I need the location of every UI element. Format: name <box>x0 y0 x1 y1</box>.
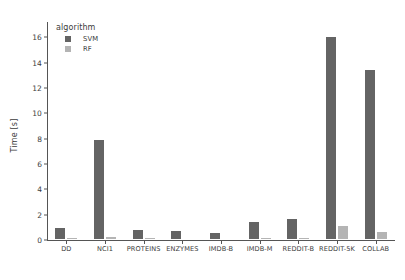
bar-rf[interactable] <box>182 238 194 240</box>
chart-figure: Time [s] 0246810121416 DDNCI1PROTEINSENZ… <box>0 0 405 280</box>
y-axis-tick-label: 2 <box>37 210 42 219</box>
legend-label-rf: RF <box>83 45 92 53</box>
x-axis-tick-mark <box>376 241 377 244</box>
y-axis-tick: 12 <box>32 83 47 92</box>
y-axis-tick: 0 <box>37 236 47 245</box>
y-axis-tick-label: 16 <box>32 33 42 42</box>
x-axis-tick-mark <box>260 241 261 244</box>
x-axis-tick-mark <box>337 241 338 244</box>
y-axis-tick-label: 0 <box>37 236 42 245</box>
x-axis-tick-label: IMDB-M <box>247 245 273 253</box>
bar-group <box>209 22 233 240</box>
bar-rf[interactable] <box>221 238 233 240</box>
bar-rf[interactable] <box>66 237 78 240</box>
x-axis-tick-mark <box>298 241 299 244</box>
y-axis-tick-label: 4 <box>37 185 42 194</box>
x-axis-tick-label: DD <box>61 245 71 253</box>
x-axis-tick-label: NCI1 <box>97 245 113 253</box>
bar-svm[interactable] <box>132 229 144 240</box>
y-axis-tick: 6 <box>37 159 47 168</box>
bar-rf[interactable] <box>376 231 388 241</box>
x-axis-tick-label: REDDIT-5K <box>319 245 355 253</box>
legend-item-rf[interactable]: RF <box>56 45 98 53</box>
bar-group <box>248 22 272 240</box>
y-axis-tick: 16 <box>32 33 47 42</box>
bar-svm[interactable] <box>54 227 66 240</box>
bar-rf[interactable] <box>144 237 156 240</box>
bar-group <box>170 22 194 240</box>
bar-rf[interactable] <box>337 225 349 240</box>
bar-svm[interactable] <box>248 221 260 240</box>
x-axis-tick-mark <box>221 241 222 244</box>
y-axis-tick: 10 <box>32 109 47 118</box>
x-axis-tick-label: COLLAB <box>362 245 389 253</box>
x-axis-tick-label: REDDIT-B <box>282 245 314 253</box>
bar-svm[interactable] <box>209 232 221 240</box>
y-axis: 0246810121416 <box>0 0 47 280</box>
y-axis-tick-label: 12 <box>32 83 42 92</box>
y-axis-tick-label: 6 <box>37 159 42 168</box>
bar-group <box>364 22 388 240</box>
legend: algorithm SVM RF <box>52 21 102 56</box>
bar-svm[interactable] <box>93 139 105 240</box>
y-axis-tick: 2 <box>37 210 47 219</box>
bar-svm[interactable] <box>364 69 376 240</box>
y-axis-tick-label: 10 <box>32 109 42 118</box>
bar-group <box>132 22 156 240</box>
bar-svm[interactable] <box>170 230 182 240</box>
y-axis-tick: 8 <box>37 134 47 143</box>
y-axis-tick: 4 <box>37 185 47 194</box>
bar-group <box>286 22 310 240</box>
bar-rf[interactable] <box>260 237 272 240</box>
y-axis-tick-label: 14 <box>32 58 42 67</box>
legend-title: algorithm <box>56 23 98 32</box>
y-axis-tick-label: 8 <box>37 134 42 143</box>
bar-group <box>325 22 349 240</box>
x-axis-tick-label: IMDB-B <box>209 245 234 253</box>
bar-rf[interactable] <box>298 237 310 240</box>
bar-svm[interactable] <box>325 36 337 240</box>
legend-swatch-svm <box>65 36 71 42</box>
x-axis-tick-mark <box>105 241 106 244</box>
legend-label-svm: SVM <box>83 35 98 43</box>
bar-svm[interactable] <box>286 218 298 240</box>
x-axis-tick-label: ENZYMES <box>166 245 198 253</box>
x-axis-tick-mark <box>144 241 145 244</box>
bar-rf[interactable] <box>105 236 117 240</box>
x-axis-tick-label: PROTEINS <box>127 245 161 253</box>
legend-item-svm[interactable]: SVM <box>56 35 98 43</box>
legend-swatch-rf <box>65 46 71 52</box>
x-axis-tick-mark <box>66 241 67 244</box>
y-axis-tick: 14 <box>32 58 47 67</box>
x-axis-tick-mark <box>182 241 183 244</box>
